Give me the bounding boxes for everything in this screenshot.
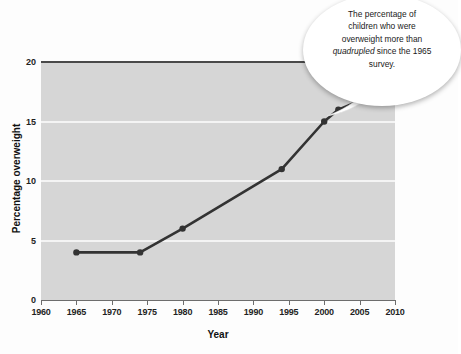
callout-line-5: survey. (369, 59, 395, 69)
callout-text: The percentage of children who were over… (315, 8, 449, 70)
x-tick-1965 (76, 300, 77, 305)
callout-emphasis: quadrupled (333, 46, 375, 56)
x-tick-label-1965: 1965 (67, 307, 86, 317)
callout-line-3: overweight more than (342, 34, 423, 44)
data-point-1980 (179, 225, 185, 231)
x-tick-2005 (360, 300, 361, 305)
x-tick-label-1995: 1995 (279, 307, 298, 317)
x-tick-1975 (147, 300, 148, 305)
y-tick-label-10: 10 (26, 176, 36, 186)
y-axis-title: Percentage overweight (11, 109, 22, 249)
x-tick-label-1980: 1980 (173, 307, 192, 317)
x-tick-2010 (395, 300, 396, 305)
x-tick-label-1960: 1960 (31, 307, 50, 317)
x-tick-1980 (183, 300, 184, 305)
data-point-1994 (279, 166, 285, 172)
y-tick-label-15: 15 (26, 117, 36, 127)
data-point-1974 (137, 249, 143, 255)
x-tick-label-1975: 1975 (138, 307, 157, 317)
x-tick-1970 (112, 300, 113, 305)
y-tick-label-0: 0 (31, 295, 36, 305)
x-tick-label-2005: 2005 (350, 307, 369, 317)
y-tick-label-5: 5 (31, 236, 36, 246)
x-tick-1990 (253, 300, 254, 305)
x-axis-title: Year (41, 329, 395, 340)
x-tick-2000 (324, 300, 325, 305)
x-tick-label-1985: 1985 (208, 307, 227, 317)
callout-line-4-tail: since the 1965 (375, 46, 432, 56)
x-tick-label-1990: 1990 (244, 307, 263, 317)
callout-annotation: The percentage of children who were over… (303, 0, 461, 106)
x-tick-1960 (41, 300, 42, 305)
y-tick-label-20: 20 (26, 57, 36, 67)
x-tick-label-1970: 1970 (102, 307, 121, 317)
x-tick-label-2000: 2000 (315, 307, 334, 317)
x-tick-label-2010: 2010 (385, 307, 404, 317)
callout-line-2: children who were (348, 21, 416, 31)
callout-line-1: The percentage of (348, 9, 416, 19)
data-point-1965 (73, 249, 79, 255)
x-tick-1985 (218, 300, 219, 305)
x-tick-1995 (289, 300, 290, 305)
